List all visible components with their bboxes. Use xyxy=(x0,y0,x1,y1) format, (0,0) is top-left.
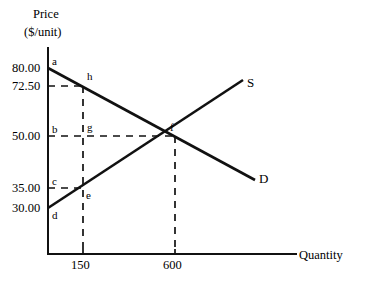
point-label-f: f xyxy=(170,122,174,133)
supply-demand-chart: Price ($/unit) Quantity 80.00 72.50 50.0… xyxy=(0,0,365,291)
y-tick-label-80: 80.00 xyxy=(12,62,40,75)
x-tick-label-150: 150 xyxy=(71,259,90,272)
point-label-h: h xyxy=(87,71,93,82)
y-tick-label-72-50: 72.50 xyxy=(12,80,40,93)
supply-curve xyxy=(48,80,243,208)
y-axis-title-line2: ($/unit) xyxy=(24,26,62,39)
y-axis-title-line1: Price xyxy=(33,8,59,21)
point-label-a: a xyxy=(52,56,57,67)
supply-curve-label: S xyxy=(247,76,254,89)
demand-curve xyxy=(48,68,255,180)
point-label-d: d xyxy=(52,210,58,221)
y-tick-label-50: 50.00 xyxy=(12,130,40,143)
y-tick-label-30: 30.00 xyxy=(12,202,40,215)
y-tick-label-35: 35.00 xyxy=(12,182,40,195)
x-axis-title: Quantity xyxy=(299,249,343,262)
point-label-g: g xyxy=(87,122,93,133)
point-label-b: b xyxy=(52,124,58,135)
x-tick-label-600: 600 xyxy=(163,259,182,272)
point-label-e: e xyxy=(86,190,91,201)
demand-curve-label: D xyxy=(259,172,268,185)
point-label-c: c xyxy=(52,176,57,187)
